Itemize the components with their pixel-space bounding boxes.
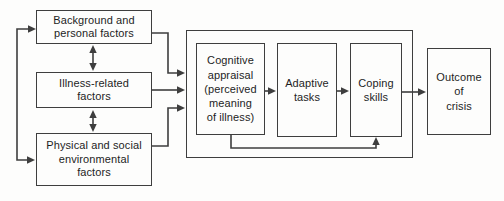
cognitive-appraisal-box: Cognitive appraisal (perceived meaning o… [196,43,265,135]
arrowhead-up-into-background-icon [89,45,96,53]
crisis-coping-flow-diagram: Background and personal factors Illness-… [0,0,504,201]
arrowhead-into-outcome-icon [418,88,426,96]
background-factors-box: Background and personal factors [36,10,152,44]
arrowhead-illness-into-panel-icon [177,86,185,94]
cognitive-appraisal-label: Cognitive appraisal (perceived meaning o… [204,53,256,124]
illness-factors-label: Illness-related factors [59,77,129,104]
arrowhead-up-into-illness-icon [89,110,96,118]
arrowhead-environment-into-panel-icon [177,104,185,112]
environment-factors-box: Physical and social environmental factor… [36,133,152,186]
arrowhead-into-environment-left-icon [27,156,35,164]
outcome-of-crisis-label: Outcome of crisis [436,70,481,113]
background-to-panel-line [152,33,178,73]
arrowhead-down-into-illness-icon [89,63,96,71]
adaptive-tasks-label: Adaptive tasks [285,76,329,105]
background-factors-label: Background and personal factors [53,14,135,41]
background-environment-loop-line [17,29,33,160]
outcome-of-crisis-box: Outcome of crisis [427,48,491,135]
arrowhead-background-into-panel-icon [177,69,185,77]
coping-skills-box: Coping skills [350,43,402,137]
illness-factors-box: Illness-related factors [36,72,152,108]
adaptive-tasks-box: Adaptive tasks [277,43,337,137]
arrowhead-down-into-environment-icon [89,124,96,132]
coping-skills-label: Coping skills [358,76,393,105]
arrowhead-into-background-left-icon [28,25,36,33]
environment-factors-label: Physical and social environmental factor… [46,139,141,179]
environment-to-panel-line [152,108,178,146]
